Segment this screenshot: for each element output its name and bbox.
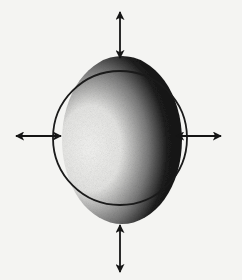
diagram-canvas <box>0 0 242 280</box>
tidal-distortion-diagram <box>0 0 242 280</box>
distorted-body-shape <box>62 56 182 224</box>
